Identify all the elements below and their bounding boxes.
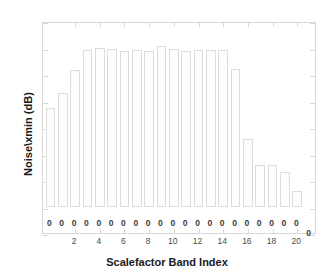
x-axis-tick — [223, 23, 224, 27]
x-axis-tick — [100, 229, 101, 233]
bar — [169, 49, 179, 207]
bar — [292, 191, 302, 207]
bar — [70, 70, 80, 206]
y-axis-tick — [310, 50, 315, 51]
bar — [255, 165, 265, 206]
x-axis-tick — [75, 229, 76, 233]
x-axis-tick — [273, 23, 274, 27]
y-axis-tick — [43, 23, 48, 24]
x-axis-tick-label: 10 — [161, 236, 185, 246]
x-axis-tick — [199, 23, 200, 27]
bar — [231, 69, 241, 207]
bar — [181, 51, 191, 206]
x-axis-tick — [174, 23, 175, 27]
y-axis-tick — [310, 209, 315, 210]
y-axis-title: Noise\xmin (dB) — [22, 54, 34, 214]
y-axis-tick — [43, 103, 48, 104]
bar-chart-figure: Noise\xmin (dB) Scalefactor Band Index -… — [0, 0, 334, 277]
x-axis-tick-label: 12 — [186, 236, 210, 246]
bar — [46, 108, 56, 206]
x-axis-tick-label: 8 — [136, 236, 160, 246]
x-axis-tick — [124, 23, 125, 27]
x-axis-tick — [100, 23, 101, 27]
y-axis-tick — [310, 23, 315, 24]
plot-area — [42, 22, 316, 234]
bar — [58, 93, 68, 207]
bar — [107, 49, 117, 207]
x-axis-tick — [273, 229, 274, 233]
x-axis-tick — [124, 229, 125, 233]
x-axis-title: Scalefactor Band Index — [0, 256, 334, 268]
y-axis-tick — [310, 156, 315, 157]
y-axis-tick — [310, 129, 315, 130]
x-axis-tick-label: 2 — [62, 236, 86, 246]
bar — [120, 51, 130, 206]
x-axis-tick — [248, 229, 249, 233]
x-axis-tick — [297, 23, 298, 27]
x-axis-tick — [174, 229, 175, 233]
x-axis-tick-label: 14 — [210, 236, 234, 246]
y-axis-tick — [310, 76, 315, 77]
x-axis-tick-label: 16 — [235, 236, 259, 246]
bar-value-label: 0 — [301, 228, 317, 238]
x-axis-tick-label: 6 — [111, 236, 135, 246]
bar — [194, 50, 204, 206]
bar — [280, 172, 290, 206]
bar — [218, 50, 228, 206]
y-axis-tick — [43, 235, 48, 236]
y-axis-tick — [310, 103, 315, 104]
x-axis-tick-label: 4 — [87, 236, 111, 246]
x-axis-tick — [149, 229, 150, 233]
bar — [268, 165, 278, 206]
x-axis-tick — [297, 229, 298, 233]
bar — [206, 50, 216, 206]
y-axis-tick — [43, 50, 48, 51]
bar-value-label: 0 — [288, 218, 304, 228]
y-axis-tick — [43, 209, 48, 210]
x-axis-tick — [223, 229, 224, 233]
x-axis-tick — [248, 23, 249, 27]
bar — [132, 50, 142, 206]
bar — [157, 46, 167, 206]
x-axis-tick — [75, 23, 76, 27]
bar — [95, 48, 105, 207]
x-axis-tick — [199, 229, 200, 233]
bar — [144, 51, 154, 206]
y-axis-tick — [310, 182, 315, 183]
x-axis-tick — [149, 23, 150, 27]
bar — [243, 139, 253, 207]
y-axis-tick — [43, 76, 48, 77]
x-axis-tick-label: 18 — [260, 236, 284, 246]
bar — [83, 50, 93, 206]
